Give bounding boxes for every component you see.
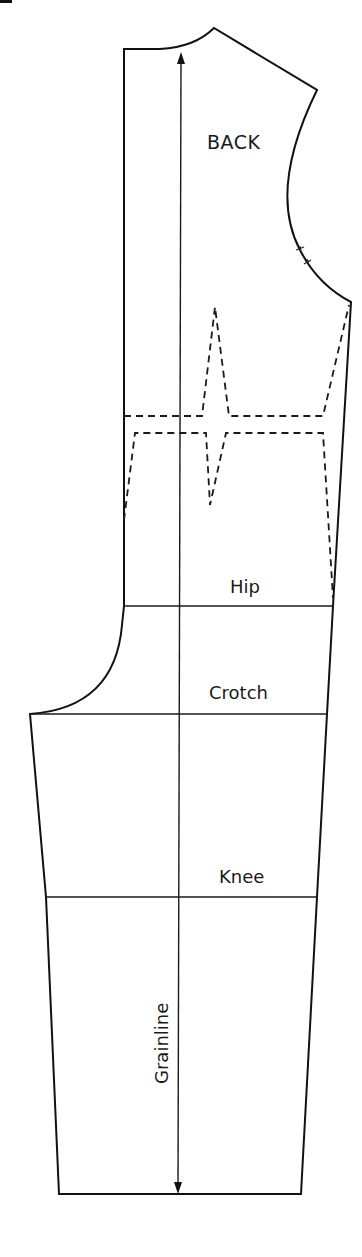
pattern-diagram [0, 0, 362, 1257]
arrowhead-up-icon [177, 52, 185, 64]
grainline-label: Grainline [153, 1003, 171, 1084]
bodice-waist-dart [124, 305, 349, 416]
piece-label: BACK [207, 133, 260, 152]
pattern-outline [30, 28, 351, 1194]
arrowhead-down-icon [174, 1182, 182, 1194]
crotch-label: Crotch [209, 684, 268, 702]
knee-label: Knee [219, 868, 264, 886]
hip-label: Hip [230, 578, 260, 596]
trouser-waist-dart [124, 433, 333, 598]
grainline-arrow [174, 52, 185, 1194]
